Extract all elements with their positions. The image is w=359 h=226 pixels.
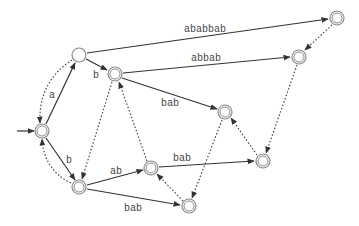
label-q1-q2: b	[93, 70, 99, 81]
automaton-diagram: a b ababbab abbab bab b ab bab bab	[0, 0, 359, 226]
state-q8	[256, 154, 270, 168]
state-q3	[330, 11, 344, 25]
state-q4	[292, 50, 306, 64]
state-q6	[72, 180, 86, 194]
fail-q3-q4	[305, 25, 332, 50]
fail-q5-q9	[192, 120, 222, 198]
label-q1-q3: ababbab	[184, 24, 226, 35]
fail-q4-q8	[266, 65, 297, 153]
state-q1	[72, 48, 86, 62]
state-q2	[108, 67, 122, 81]
edge-q1-q2	[86, 59, 107, 70]
state-q9	[182, 199, 196, 213]
label-q2-q5: bab	[161, 98, 179, 109]
label-q7-q8: bab	[173, 153, 191, 164]
fail-q9-q7	[157, 174, 183, 201]
label-q0-q1: a	[49, 90, 55, 101]
fail-q1-q0	[40, 60, 72, 123]
fail-q8-q5	[231, 118, 257, 155]
state-q0	[35, 124, 49, 138]
label-q6-q7: ab	[110, 166, 122, 177]
label-q0-q6: b	[66, 155, 72, 166]
label-q6-q9: bab	[124, 203, 142, 214]
fail-q7-q2	[119, 82, 147, 161]
label-q2-q4: abbab	[191, 53, 221, 64]
state-q7	[144, 161, 158, 175]
fail-q2-q6	[82, 82, 112, 179]
state-q5	[218, 105, 232, 119]
